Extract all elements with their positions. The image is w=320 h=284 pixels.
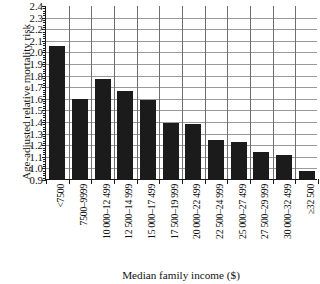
y-axis-minor-tick	[43, 92, 46, 93]
x-axis-label-slot: 20 000–22 499	[181, 182, 204, 266]
x-axis-label-slot: ≥32 500	[294, 182, 317, 266]
vertical-gridline	[182, 6, 183, 179]
bar	[185, 124, 201, 179]
y-axis-minor-tick	[43, 13, 46, 14]
x-axis-title: Median family income ($)	[45, 269, 317, 281]
x-axis-label-slot: 7500–9999	[68, 182, 91, 266]
y-axis-minor-tick	[43, 15, 46, 16]
y-axis-minor-tick	[43, 101, 46, 102]
bar-chart: Age-adjusted relative mortality risk 0.9…	[0, 0, 320, 284]
y-axis-minor-tick	[43, 71, 46, 72]
y-axis-minor-tick	[43, 108, 46, 109]
y-axis-minor-tick	[43, 164, 46, 165]
y-axis-tick	[42, 41, 47, 42]
y-axis-minor-tick	[43, 159, 46, 160]
y-axis-tick	[42, 99, 47, 100]
y-axis-minor-tick	[43, 62, 46, 63]
vertical-gridline	[91, 6, 92, 179]
y-axis-minor-tick	[43, 150, 46, 151]
y-axis-minor-tick	[43, 66, 46, 67]
bar	[253, 152, 269, 179]
x-axis-label-slot: <7500	[45, 182, 68, 266]
x-axis-tick-label: 27 500–29 999	[260, 184, 269, 239]
bar	[140, 100, 156, 179]
y-axis-minor-tick	[43, 136, 46, 137]
plot-inner	[46, 6, 317, 179]
x-axis-tick-label: 17 500–19 999	[170, 184, 179, 239]
vertical-gridline	[159, 6, 160, 179]
x-axis-tick	[318, 179, 319, 184]
vertical-gridline	[273, 6, 274, 179]
bar	[231, 142, 247, 179]
y-axis-tick	[42, 29, 47, 30]
y-axis-minor-tick	[43, 117, 46, 118]
y-axis-minor-tick	[43, 45, 46, 46]
x-axis-label-slot: 15 000–17 499	[136, 182, 159, 266]
y-axis-minor-tick	[43, 57, 46, 58]
y-axis-tick	[42, 110, 47, 111]
bar	[299, 171, 315, 179]
x-axis-tick-label: <7500	[56, 184, 65, 208]
y-axis-minor-tick	[43, 143, 46, 144]
y-axis-minor-tick	[43, 55, 46, 56]
bar	[72, 99, 88, 179]
y-axis-minor-tick	[43, 11, 46, 12]
y-axis-minor-tick	[43, 113, 46, 114]
plot-area	[45, 6, 317, 180]
y-axis-minor-tick	[43, 25, 46, 26]
y-axis-minor-tick	[43, 106, 46, 107]
x-axis-tick-label: 22 500–24 999	[215, 184, 224, 239]
bar	[276, 155, 292, 179]
bar	[163, 123, 179, 179]
x-axis-label-slot: 12 500–14 999	[113, 182, 136, 266]
x-axis-tick-label: 7500–9999	[79, 184, 88, 225]
y-axis-tick-labels: 0.91.01.11.21.31.41.51.61.71.81.92.02.12…	[19, 0, 43, 180]
x-axis-label-slot: 30 000–32 499	[272, 182, 295, 266]
bar	[49, 46, 65, 179]
vertical-gridline	[227, 6, 228, 179]
y-axis-minor-tick	[43, 36, 46, 37]
y-axis-minor-tick	[43, 22, 46, 23]
y-axis-minor-tick	[43, 90, 46, 91]
y-axis-minor-tick	[43, 48, 46, 49]
y-axis-tick	[42, 76, 47, 77]
x-axis-label-slot: 17 500–19 999	[158, 182, 181, 266]
y-axis-minor-tick	[43, 173, 46, 174]
x-axis-tick-label: 20 000–22 499	[192, 184, 201, 239]
y-axis-minor-tick	[43, 27, 46, 28]
x-axis-tick-label: 10 000–12 499	[102, 184, 111, 239]
bar	[208, 140, 224, 179]
bar	[95, 79, 111, 179]
y-axis-minor-tick	[43, 131, 46, 132]
y-axis-minor-tick	[43, 154, 46, 155]
y-axis-minor-tick	[43, 69, 46, 70]
y-axis-tick	[42, 64, 47, 65]
y-axis-minor-tick	[43, 166, 46, 167]
y-axis-minor-tick	[43, 124, 46, 125]
y-axis-tick	[42, 145, 47, 146]
vertical-gridline	[205, 6, 206, 179]
bar	[117, 91, 133, 179]
y-axis-minor-tick	[43, 138, 46, 139]
y-axis-minor-tick	[43, 8, 46, 9]
y-axis-tick	[42, 18, 47, 19]
y-axis-minor-tick	[43, 161, 46, 162]
y-axis-minor-tick	[43, 129, 46, 130]
y-axis-minor-tick	[43, 103, 46, 104]
vertical-gridline	[295, 6, 296, 179]
y-axis-minor-tick	[43, 20, 46, 21]
vertical-gridline	[137, 6, 138, 179]
y-axis-minor-tick	[43, 141, 46, 142]
y-axis-minor-tick	[43, 85, 46, 86]
x-axis-label-slot: 10 000–12 499	[90, 182, 113, 266]
x-axis-tick-label: 12 500–14 999	[124, 184, 133, 239]
vertical-gridline	[114, 6, 115, 179]
x-axis-label-slot: 27 500–29 999	[249, 182, 272, 266]
y-axis-minor-tick	[43, 171, 46, 172]
y-axis-tick	[42, 52, 47, 53]
y-axis-minor-tick	[43, 59, 46, 60]
y-axis-minor-tick	[43, 127, 46, 128]
y-axis-minor-tick	[43, 78, 46, 79]
y-axis-minor-tick	[43, 32, 46, 33]
vertical-gridline	[69, 6, 70, 179]
